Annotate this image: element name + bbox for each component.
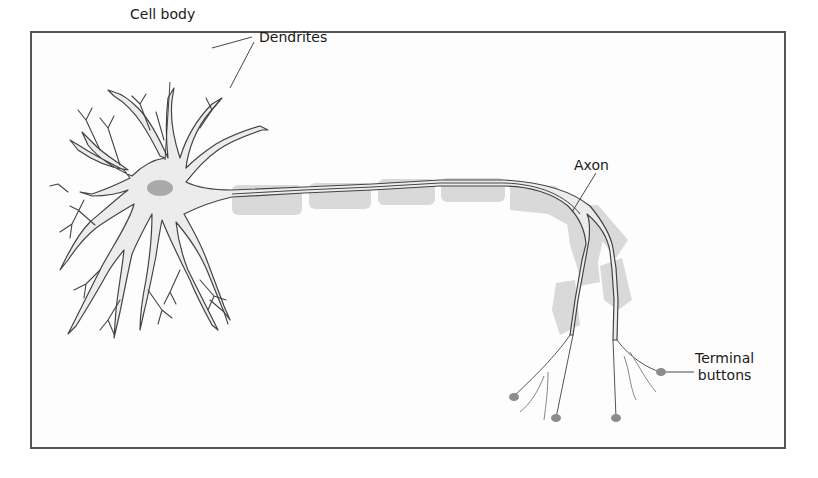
nucleus xyxy=(147,180,173,196)
neuron-illustration xyxy=(0,0,818,478)
terminal-buttons xyxy=(509,368,666,422)
dendrites-label: Dendrites xyxy=(259,29,327,46)
neuron-diagram: Cell body Dendrites Axon Terminal button… xyxy=(0,0,818,478)
terminal-buttons-label-line2: buttons xyxy=(695,367,754,384)
terminal-branches xyxy=(514,335,660,420)
cell-body-label: Cell body xyxy=(130,6,195,23)
axon-label: Axon xyxy=(574,157,609,174)
cell-body xyxy=(60,88,618,340)
terminal-buttons-label: Terminal buttons xyxy=(695,350,754,384)
terminal-buttons-label-line1: Terminal xyxy=(695,350,754,367)
